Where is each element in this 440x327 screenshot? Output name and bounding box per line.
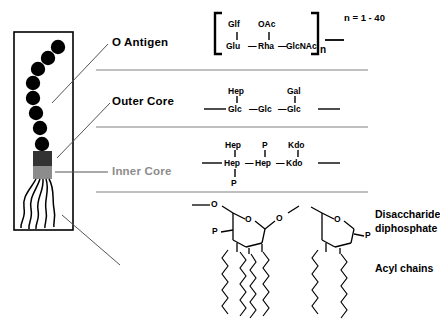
acyl-chain (312, 250, 318, 314)
atom-ring-o-left: O (245, 214, 252, 224)
repeat-count-note: n = 1 - 40 (344, 12, 385, 23)
acyl-chain (341, 254, 347, 318)
o-antigen-bead (26, 91, 40, 105)
acyl-chains-left (222, 250, 269, 318)
residue-kdo-branch: Kdo (288, 140, 305, 150)
outer-core-block (33, 151, 52, 166)
ring-bond (255, 221, 265, 229)
o-antigen-bead (33, 121, 47, 135)
ring-bond (233, 240, 246, 247)
atom-phosphate-left: P (212, 226, 218, 236)
label-disaccharide-line1: Disaccharide (375, 208, 440, 220)
residue-hep-2: Hep (255, 158, 271, 168)
inner-core-block (33, 166, 52, 179)
o-antigen-bead (41, 51, 55, 65)
residue-p-branch-bottom: P (231, 178, 237, 188)
acyl-chain (263, 252, 269, 316)
cell-diagram (14, 32, 73, 230)
residue-kdo: Kdo (286, 158, 303, 168)
bond-hep2-kdo: — (276, 158, 285, 168)
ring-bond (262, 229, 265, 243)
residue-hep-branch-outer: Hep (228, 86, 244, 96)
leader-line-lipid-a (62, 215, 120, 265)
ring-bond (322, 213, 334, 219)
bond-glu-rha: — (248, 41, 257, 51)
label-disaccharide-line2: diphosphate (375, 222, 437, 234)
o-antigen-bead (26, 76, 40, 90)
ring-bond (233, 213, 245, 219)
ring-bond (322, 240, 335, 247)
residue-rha: Rha (258, 41, 274, 51)
residue-glc-1: Glc (228, 104, 242, 114)
ring-bond (335, 243, 351, 247)
outer-core-structure (204, 96, 340, 109)
acyl-chains-right (312, 250, 347, 318)
ring-bond (246, 243, 262, 247)
o-antigen-bead (51, 40, 65, 54)
label-inner-core: Inner Core (112, 165, 172, 177)
bond-p-left (221, 230, 233, 232)
o-antigen-bead (29, 106, 43, 120)
bond-terminal-to-c6 (222, 206, 233, 213)
residue-hep-branch-inner: Hep (225, 140, 241, 150)
atom-phosphate-right: P (365, 230, 371, 240)
left-sugar-ring (221, 213, 265, 247)
residue-hep-1: Hep (224, 158, 240, 168)
right-sugar-ring (322, 213, 364, 247)
ring-bond (351, 229, 354, 243)
acyl-chain (240, 252, 246, 316)
bond-p-right (354, 234, 364, 236)
residue-glc-2: Glc (258, 104, 272, 114)
acyl-chain (222, 250, 228, 314)
label-o-antigen: O Antigen (112, 36, 168, 48)
bracket-left (215, 13, 222, 54)
bond-glc1-glc2: — (249, 104, 258, 114)
o-antigen-bead (35, 137, 49, 151)
residue-p-branch-top: P (262, 140, 268, 150)
bond-hep1-hep2: — (245, 158, 254, 168)
residue-glcnac: GlcNAc (286, 41, 317, 51)
residue-glf: Glf (228, 19, 240, 29)
acyl-chain (250, 254, 256, 318)
label-outer-core: Outer Core (112, 95, 174, 107)
residue-glc-3: Glc (287, 104, 301, 114)
ring-bond (344, 221, 354, 229)
o-antigen-bead (31, 62, 45, 76)
residue-gal-branch: Gal (287, 86, 301, 96)
residue-glu: Glu (226, 41, 240, 51)
label-acyl-chains: Acyl chains (375, 262, 433, 274)
bond-bridge-o-to-right (288, 206, 299, 213)
bond-glc2-glc3: — (278, 104, 287, 114)
atom-terminal-o: O (211, 199, 218, 209)
bracket-subscript-n: n (320, 44, 326, 55)
atom-bridge-o: O (276, 213, 283, 223)
residue-oac: OAc (258, 19, 275, 29)
atom-ring-o-right: O (334, 214, 341, 224)
bond-right-o-arm (311, 207, 322, 213)
bond-ring-to-bridge-o (265, 221, 275, 229)
